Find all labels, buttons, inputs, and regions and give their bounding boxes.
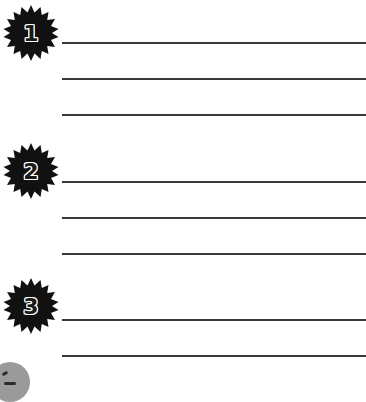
section-number: 1 <box>2 4 60 62</box>
answer-line[interactable] <box>62 217 366 219</box>
answer-line[interactable] <box>62 78 366 80</box>
section-number: 2 <box>2 142 60 200</box>
answer-line[interactable] <box>62 181 366 183</box>
corner-decoration-icon <box>0 362 30 402</box>
answer-line[interactable] <box>62 42 366 44</box>
answer-line[interactable] <box>62 114 366 116</box>
number-badge-3: 3 <box>2 277 60 335</box>
section-number: 3 <box>2 277 60 335</box>
number-badge-2: 2 <box>2 142 60 200</box>
number-badge-1: 1 <box>2 4 60 62</box>
answer-line[interactable] <box>62 319 366 321</box>
answer-line[interactable] <box>62 253 366 255</box>
answer-line[interactable] <box>62 355 366 357</box>
